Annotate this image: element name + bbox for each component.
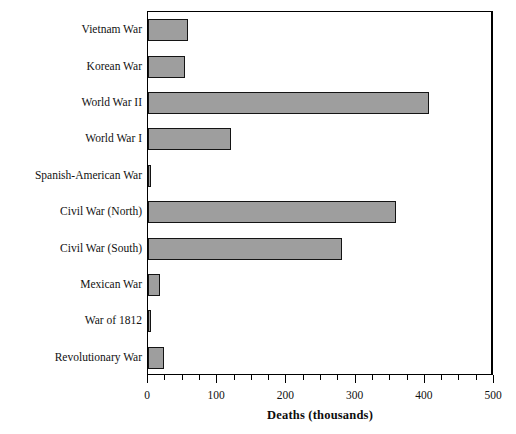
x-axis-minor-tick	[303, 375, 304, 380]
x-axis-minor-tick	[268, 375, 269, 380]
bar-row	[148, 267, 491, 303]
x-axis-minor-tick	[199, 375, 200, 380]
y-axis-label: Spanish-American War	[2, 169, 142, 181]
y-axis-label: War of 1812	[2, 314, 142, 326]
bar-row	[148, 303, 491, 339]
x-axis-minor-tick	[320, 375, 321, 380]
bar-korean-war	[148, 56, 185, 78]
y-axis-label: Mexican War	[2, 278, 142, 290]
y-axis-labels: Vietnam WarKorean WarWorld War IIWorld W…	[0, 11, 142, 375]
x-axis-tick-label: 300	[346, 388, 363, 402]
x-axis-major-tick	[285, 375, 286, 383]
bar-spanish-american-war	[148, 165, 151, 187]
bar-vietnam-war	[148, 19, 188, 41]
bar-row	[148, 48, 491, 84]
x-axis-minor-tick	[164, 375, 165, 380]
x-axis-tick-labels: 0100200300400500	[147, 388, 493, 404]
bar-row	[148, 158, 491, 194]
bar-civil-war-north	[148, 201, 396, 223]
bar-row	[148, 12, 491, 48]
x-axis-tick-label: 200	[277, 388, 294, 402]
bar-chart: Vietnam WarKorean WarWorld War IIWorld W…	[0, 0, 516, 434]
x-axis-minor-tick	[337, 375, 338, 380]
x-axis-minor-tick	[251, 375, 252, 380]
y-axis-label: World War II	[2, 96, 142, 108]
y-axis-label: World War I	[2, 132, 142, 144]
x-axis-major-tick	[493, 375, 494, 383]
bar-row	[148, 121, 491, 157]
x-axis-tick-label: 100	[208, 388, 225, 402]
bar-war-of-1812	[148, 310, 151, 332]
x-axis-major-tick	[355, 375, 356, 383]
x-axis-major-tick	[424, 375, 425, 383]
y-axis-label: Civil War (South)	[2, 242, 142, 254]
x-axis-tick-label: 500	[484, 388, 501, 402]
x-axis-title: Deaths (thousands)	[147, 408, 493, 423]
x-axis-minor-tick	[372, 375, 373, 380]
bar-row	[148, 194, 491, 230]
bar-world-war-i	[148, 128, 231, 150]
x-axis-minor-tick	[234, 375, 235, 380]
bar-civil-war-south	[148, 238, 342, 260]
x-axis-minor-tick	[441, 375, 442, 380]
x-axis-minor-tick	[407, 375, 408, 380]
bar-row	[148, 340, 491, 376]
x-axis-minor-tick	[476, 375, 477, 380]
x-axis-minor-tick	[458, 375, 459, 380]
y-axis-label: Civil War (North)	[2, 205, 142, 217]
y-axis-label: Revolutionary War	[2, 351, 142, 363]
x-axis-minor-tick	[389, 375, 390, 380]
y-axis-label: Korean War	[2, 60, 142, 72]
bar-world-war-ii	[148, 92, 429, 114]
plot-area	[147, 11, 493, 375]
bar-row	[148, 85, 491, 121]
bar-revolutionary-war	[148, 347, 164, 369]
x-axis-minor-tick	[182, 375, 183, 380]
x-axis-ticks	[147, 375, 493, 387]
bar-row	[148, 230, 491, 266]
x-axis-major-tick	[216, 375, 217, 383]
bar-mexican-war	[148, 274, 160, 296]
y-axis-label: Vietnam War	[2, 23, 142, 35]
x-axis-tick-label: 400	[415, 388, 432, 402]
x-axis-tick-label: 0	[144, 388, 150, 402]
x-axis-major-tick	[147, 375, 148, 383]
